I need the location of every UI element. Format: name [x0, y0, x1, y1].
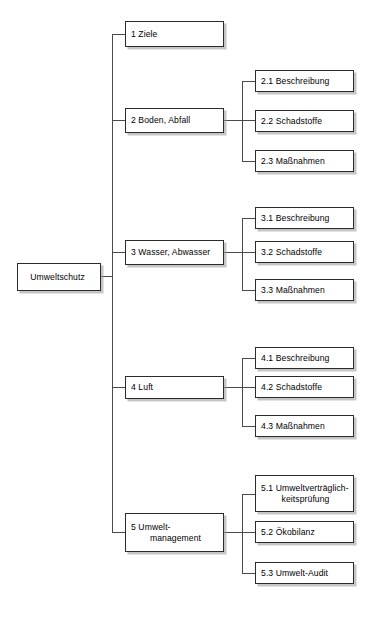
tree-diagram: Umweltschutz 1 Ziele 2 Boden, Abfall 3 W…	[0, 0, 366, 617]
branch-connector-3	[112, 252, 126, 253]
node-4-2-schadstoffe[interactable]: 4.2 Schadstoffe	[255, 376, 354, 398]
sub-connector-5-2	[242, 532, 256, 533]
sub-connector-5-3	[242, 573, 256, 574]
sub-connector-4-2	[242, 387, 256, 388]
node-4-luft[interactable]: 4 Luft	[125, 376, 224, 399]
node-5-label-line1: 5 Umwelt-	[131, 522, 220, 533]
sub-vertical-5	[242, 494, 243, 573]
trunk-vertical-line	[112, 34, 113, 532]
sub-connector-3-2	[242, 252, 256, 253]
node-3-label: 3 Wasser, Abwasser	[131, 247, 220, 258]
node-2-boden-abfall[interactable]: 2 Boden, Abfall	[125, 108, 224, 133]
sub-connector-4-stem	[224, 387, 242, 388]
sub-connector-5-1	[242, 494, 256, 495]
sub-connector-5-stem	[224, 532, 242, 533]
node-3-1-label: 3.1 Beschreibung	[261, 213, 350, 224]
node-5-1-umweltvertraeglichkeitspruefung[interactable]: 5.1 Umweltverträglich- keitsprüfung	[255, 475, 354, 512]
node-3-2-schadstoffe[interactable]: 3.2 Schadstoffe	[255, 241, 354, 263]
node-3-3-label: 3.3 Maßnahmen	[261, 285, 350, 296]
node-2-3-massnahmen[interactable]: 2.3 Maßnahmen	[255, 150, 354, 172]
node-5-label-line2: management	[131, 533, 220, 544]
node-4-1-label: 4.1 Beschreibung	[261, 353, 350, 364]
branch-connector-4	[112, 387, 126, 388]
sub-connector-2-1	[242, 81, 256, 82]
node-root-label: Umweltschutz	[30, 272, 85, 283]
sub-connector-4-1	[242, 358, 256, 359]
node-2-1-beschreibung[interactable]: 2.1 Beschreibung	[255, 70, 354, 92]
node-3-1-beschreibung[interactable]: 3.1 Beschreibung	[255, 207, 354, 229]
node-3-2-label: 3.2 Schadstoffe	[261, 247, 350, 258]
node-2-1-label: 2.1 Beschreibung	[261, 76, 350, 87]
sub-connector-3-stem	[224, 252, 242, 253]
sub-vertical-4	[242, 358, 243, 426]
node-4-label: 4 Luft	[131, 382, 220, 393]
node-3-3-massnahmen[interactable]: 3.3 Maßnahmen	[255, 279, 354, 301]
sub-connector-3-3	[242, 290, 256, 291]
sub-connector-3-1	[242, 218, 256, 219]
branch-connector-2	[112, 120, 126, 121]
node-2-label: 2 Boden, Abfall	[131, 115, 220, 126]
branch-connector-1	[112, 34, 126, 35]
node-5-umweltmanagement[interactable]: 5 Umwelt- management	[125, 513, 224, 552]
node-4-2-label: 4.2 Schadstoffe	[261, 382, 350, 393]
node-5-3-umwelt-audit[interactable]: 5.3 Umwelt-Audit	[255, 562, 354, 584]
node-2-2-label: 2.2 Schadstoffe	[261, 116, 350, 127]
sub-connector-4-3	[242, 426, 256, 427]
node-2-3-label: 2.3 Maßnahmen	[261, 156, 350, 167]
node-4-3-label: 4.3 Maßnahmen	[261, 421, 350, 432]
sub-vertical-2	[242, 81, 243, 161]
node-5-2-oekobilanz[interactable]: 5.2 Ökobilanz	[255, 521, 354, 543]
node-4-3-massnahmen[interactable]: 4.3 Maßnahmen	[255, 415, 354, 437]
sub-connector-2-stem	[224, 120, 242, 121]
branch-connector-5	[112, 532, 126, 533]
node-4-1-beschreibung[interactable]: 4.1 Beschreibung	[255, 347, 354, 369]
node-5-1-label-line2: keitsprüfung	[261, 494, 350, 505]
sub-connector-2-2	[242, 120, 256, 121]
node-1-ziele[interactable]: 1 Ziele	[125, 21, 224, 47]
sub-vertical-3	[242, 218, 243, 290]
node-5-3-label: 5.3 Umwelt-Audit	[261, 568, 350, 579]
node-2-2-schadstoffe[interactable]: 2.2 Schadstoffe	[255, 110, 354, 132]
sub-connector-2-3	[242, 161, 256, 162]
node-5-2-label: 5.2 Ökobilanz	[261, 527, 350, 538]
node-3-wasser-abwasser[interactable]: 3 Wasser, Abwasser	[125, 240, 224, 265]
node-root-umweltschutz[interactable]: Umweltschutz	[17, 263, 101, 291]
root-connector-line	[100, 276, 113, 277]
node-1-label: 1 Ziele	[131, 29, 220, 40]
node-5-1-label-line1: 5.1 Umweltverträglich-	[261, 483, 350, 494]
